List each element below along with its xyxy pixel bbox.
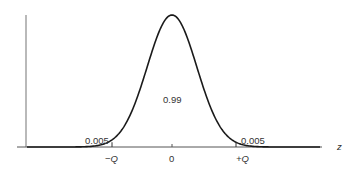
center-area-label: 0.99 <box>163 94 182 105</box>
normal-curve <box>27 15 320 147</box>
x-axis-label: z <box>336 141 342 152</box>
tick-label-neg-q: −Q <box>105 153 119 164</box>
right-tail-label: 0.005 <box>241 135 265 146</box>
normal-distribution-chart: 0.005 0.99 0.005 −Q 0 +Q z <box>0 0 359 173</box>
tick-label-pos-q: +Q <box>236 153 250 164</box>
left-tail-label: 0.005 <box>85 135 109 146</box>
tick-label-zero: 0 <box>169 153 174 164</box>
